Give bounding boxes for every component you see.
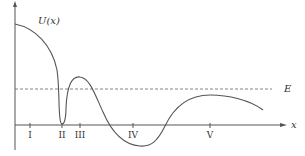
- region-label-v: V: [207, 131, 214, 140]
- region-label-iv: IV: [128, 131, 138, 140]
- y-axis-arrow-icon: [13, 1, 17, 7]
- potential-energy-diagram: U(x) E x I II III IV V: [0, 0, 305, 156]
- region-label-iii: III: [75, 131, 86, 140]
- energy-label: E: [284, 84, 291, 94]
- region-label-ii: II: [58, 131, 65, 140]
- potential-curve: [15, 24, 263, 146]
- x-axis-label: x: [291, 120, 297, 130]
- region-label-i: I: [28, 131, 32, 140]
- curve-label: U(x): [38, 16, 60, 26]
- x-axis-arrow-icon: [280, 123, 287, 127]
